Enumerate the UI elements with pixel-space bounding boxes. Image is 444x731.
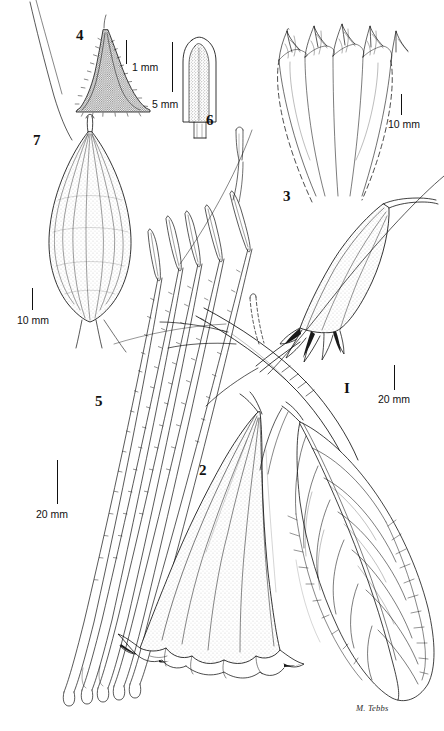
figure-3-corolla-lobes xyxy=(278,24,408,202)
scale-bar-20mm-fig5-label: 20 mm xyxy=(36,509,68,520)
anthers-group xyxy=(148,127,250,281)
scale-bar-20mm-fig5-line xyxy=(57,460,58,504)
scale-bar-10mm-fig3-line xyxy=(401,94,402,115)
figure-label-2: 2 xyxy=(199,463,207,478)
figure-2-corolla-trumpet xyxy=(118,392,304,678)
figure-label-5: 5 xyxy=(95,394,103,409)
figure-7-fruit-capsule xyxy=(49,114,131,352)
scale-bar-1mm-fig4-label: 1 mm xyxy=(132,62,158,73)
scale-bar-10mm-fig3-label: 10 mm xyxy=(388,119,420,130)
scale-bar-5mm-fig6-label: 5 mm xyxy=(152,99,178,110)
artist-signature: M. Tebbs xyxy=(356,703,388,713)
ink-linework xyxy=(30,0,444,706)
figure-label-6: 6 xyxy=(206,113,214,128)
illustration-canvas xyxy=(0,0,444,731)
leaf-blade xyxy=(282,402,434,701)
scale-bar-1mm-fig4-line xyxy=(126,40,127,64)
figure-label-1: I xyxy=(344,381,350,396)
scale-bar-5mm-fig6-line xyxy=(172,42,173,92)
figure-1-bud-and-calyx xyxy=(256,198,438,372)
scale-bar-10mm-fig7-label: 10 mm xyxy=(17,315,49,326)
figure-label-4: 4 xyxy=(76,28,84,43)
figure-label-3: 3 xyxy=(283,189,291,204)
scale-bar-20mm-fig1-label: 20 mm xyxy=(378,394,410,405)
scale-bar-10mm-fig7-line xyxy=(32,288,33,310)
scale-bar-20mm-fig1-line xyxy=(394,365,395,390)
pedicel-lines-upper-left xyxy=(30,0,72,140)
botanical-plate: 4 6 3 7 5 2 I 1 mm 5 mm 10 mm 10 mm 20 m… xyxy=(0,0,444,731)
stray-stem-arcs xyxy=(114,130,444,374)
figure-label-7: 7 xyxy=(33,133,41,148)
